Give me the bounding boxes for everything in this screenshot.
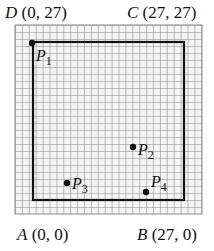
point-dot xyxy=(29,40,35,46)
point-dot xyxy=(64,180,70,186)
point-dot xyxy=(130,144,136,150)
grid-diagram: P1 P2 P3 P4 xyxy=(0,0,214,251)
point-dot xyxy=(143,189,149,195)
